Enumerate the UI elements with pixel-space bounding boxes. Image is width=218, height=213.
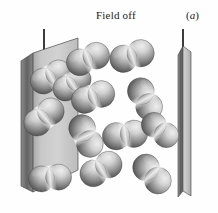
right-plate-edge bbox=[178, 46, 183, 197]
right-plate-face bbox=[183, 46, 191, 196]
right-plate bbox=[178, 29, 191, 197]
figure-canvas bbox=[0, 0, 218, 213]
field-off-capacitor-figure: Field off (a) bbox=[0, 0, 218, 213]
